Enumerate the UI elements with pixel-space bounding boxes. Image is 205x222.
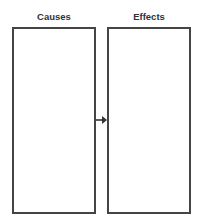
arrow-right-icon bbox=[96, 114, 108, 126]
causes-box bbox=[12, 27, 96, 214]
effects-title: Effects bbox=[107, 11, 191, 22]
causes-title: Causes bbox=[12, 11, 96, 22]
effects-box bbox=[107, 27, 191, 214]
